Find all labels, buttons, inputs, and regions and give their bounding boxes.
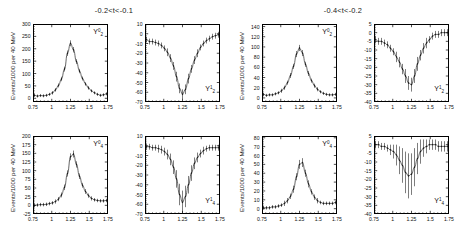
x-axis-tick-label: 1.5	[315, 104, 322, 110]
x-axis-tick-label: 0.75	[257, 216, 267, 222]
y-axis-label-left-top: Events/1000 per 40 MeV	[9, 32, 16, 100]
y-axis-tick-label: 20	[254, 188, 260, 194]
x-axis-tick-label: 1.25	[66, 104, 76, 110]
y-axis-tick-label: -15	[364, 168, 371, 174]
x-axis-tick-label: 1.75	[332, 216, 342, 222]
group-title-left: -0.2<t<-0.1	[0, 6, 228, 15]
y-axis-tick-label: 75	[25, 176, 31, 182]
y-axis-tick-label: 100	[22, 168, 31, 174]
y-axis-tick-label: 0	[257, 95, 260, 101]
moment-label-y41-left: Y14	[205, 197, 215, 206]
y-axis-tick-label: -60	[135, 201, 142, 207]
y-axis-tick-label: 0	[28, 202, 31, 208]
x-axis-tick-label: 1	[162, 104, 165, 110]
moment-label-y21-left: Y12	[205, 85, 215, 94]
y-axis-tick-label: -10	[135, 41, 142, 47]
y-axis-tick-label: 175	[22, 142, 31, 148]
x-axis-tick-label: 1.5	[86, 216, 93, 222]
y-axis-label-left-bottom: Events/1000 per 40 MeV	[9, 144, 16, 212]
moment-label-y21-right: Y12	[434, 85, 444, 94]
x-axis-tick-label: 1.5	[198, 216, 205, 222]
y-axis-tick-label: 50	[25, 185, 31, 191]
moment-label-y41-right: Y14	[434, 197, 444, 206]
y-axis-tick-label: -35	[364, 90, 371, 96]
y-axis-tick-label: 40	[254, 170, 260, 176]
y-axis-tick-label: 140	[251, 24, 260, 30]
y-axis-tick-label: -5	[367, 150, 372, 156]
y-axis-tick-label: 10	[254, 197, 260, 203]
moment-label-y40-right: Y04	[322, 140, 332, 149]
x-axis-tick-label: 1.75	[332, 104, 342, 110]
x-axis-tick-label: 1	[391, 104, 394, 110]
y-axis-tick-label: 30	[254, 179, 260, 185]
y-axis-tick-label: 70	[254, 144, 260, 150]
x-axis-tick-label: 1.75	[103, 104, 113, 110]
plot-panel-y20-left[interactable]: Y02 3002502001501005000.7511.251.51.75	[33, 24, 108, 102]
y-axis-tick-label: -10	[364, 47, 371, 53]
plot-panel-y21-left[interactable]: Y12 100-10-20-30-40-50-60-700.7511.251.5…	[145, 24, 220, 102]
y-axis-tick-label: -35	[364, 202, 371, 208]
y-axis-tick-label: 5	[369, 21, 372, 27]
plot-panel-y40-left[interactable]: Y04 2001751501251007550250-250.7511.251.…	[33, 136, 108, 214]
x-axis-tick-label: 0.75	[257, 104, 267, 110]
y-axis-tick-label: 100	[251, 44, 260, 50]
x-axis-tick-label: 1.25	[295, 104, 305, 110]
y-axis-tick-label: 0	[257, 206, 260, 212]
y-axis-tick-label: 25	[25, 194, 31, 200]
y-axis-tick-label: -10	[135, 153, 142, 159]
moment-label-y20-right: Y02	[322, 28, 332, 37]
y-axis-tick-label: 125	[22, 159, 31, 165]
y-axis-tick-label: 0	[369, 142, 372, 148]
x-axis-tick-label: 1.25	[66, 216, 76, 222]
t-bin-group-left: -0.2<t<-0.1 Events/1000 per 40 MeV Event…	[0, 0, 228, 231]
x-axis-tick-label: 1.75	[444, 216, 454, 222]
x-axis-tick-label: 1.75	[215, 216, 225, 222]
x-axis-tick-label: 0.75	[369, 104, 379, 110]
x-axis-tick-label: 1.5	[315, 216, 322, 222]
x-axis-tick-label: 1.25	[295, 216, 305, 222]
moments-figure: -0.2<t<-0.1 Events/1000 per 40 MeV Event…	[0, 0, 457, 231]
x-axis-tick-label: 1.25	[407, 216, 417, 222]
plot-panel-y41-left[interactable]: Y14 100-10-20-30-40-50-60-700.7511.251.5…	[145, 136, 220, 214]
y-axis-tick-label: 60	[254, 64, 260, 70]
y-axis-tick-label: 150	[22, 58, 31, 64]
plot-panel-y41-right[interactable]: Y14 50-5-10-15-20-25-30-35-400.7511.251.…	[374, 136, 449, 214]
y-axis-tick-label: -20	[364, 176, 371, 182]
y-axis-tick-label: -30	[135, 172, 142, 178]
x-axis-tick-label: 1.75	[215, 104, 225, 110]
y-axis-tick-label: -30	[364, 82, 371, 88]
y-axis-tick-label: -50	[135, 192, 142, 198]
y-axis-tick-label: -15	[364, 56, 371, 62]
y-axis-tick-label: 40	[254, 75, 260, 81]
x-axis-tick-label: 1.75	[444, 104, 454, 110]
y-axis-tick-label: -25	[364, 73, 371, 79]
moment-label-y40-left: Y04	[93, 140, 103, 149]
x-axis-tick-label: 1.5	[427, 104, 434, 110]
y-axis-tick-label: 80	[254, 54, 260, 60]
y-axis-tick-label: 300	[22, 21, 31, 27]
x-axis-tick-label: 1	[50, 104, 53, 110]
plot-panel-y21-right[interactable]: Y12 50-5-10-15-20-25-30-35-400.7511.251.…	[374, 24, 449, 102]
x-axis-tick-label: 0.75	[369, 216, 379, 222]
y-axis-tick-label: 5	[369, 133, 372, 139]
x-axis-tick-label: 1.25	[407, 104, 417, 110]
y-axis-tick-label: 60	[254, 153, 260, 159]
y-axis-tick-label: -40	[135, 70, 142, 76]
x-axis-tick-label: 0.75	[140, 104, 150, 110]
y-axis-tick-label: 0	[140, 31, 143, 37]
plot-panel-y20-right[interactable]: Y02 1401201008060402000.7511.251.51.75	[262, 24, 337, 102]
y-axis-tick-label: -20	[135, 50, 142, 56]
y-axis-tick-label: 200	[22, 133, 31, 139]
x-axis-tick-label: 1.5	[198, 104, 205, 110]
x-axis-tick-label: 1	[162, 216, 165, 222]
y-axis-label-right-bottom: Events/1000 per 40 MeV	[238, 144, 245, 212]
y-axis-tick-label: 250	[22, 33, 31, 39]
x-axis-tick-label: 1.75	[103, 216, 113, 222]
x-axis-tick-label: 1	[50, 216, 53, 222]
x-axis-tick-label: 1	[391, 216, 394, 222]
x-axis-tick-label: 0.75	[140, 216, 150, 222]
x-axis-tick-label: 1.5	[86, 104, 93, 110]
x-axis-tick-label: 1	[279, 216, 282, 222]
plot-panel-y40-right[interactable]: Y04 807060504030201000.7511.251.51.75	[262, 136, 337, 214]
y-axis-tick-label: 50	[25, 83, 31, 89]
